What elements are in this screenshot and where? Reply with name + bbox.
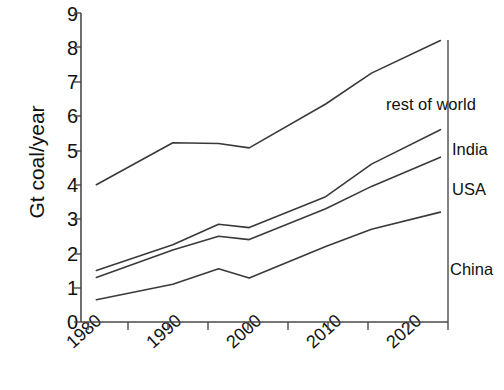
series-line-rest-of-world: [96, 41, 440, 185]
axes: [81, 13, 448, 322]
y-axis-ticks: [74, 13, 81, 322]
coal-consumption-chart: Gt coal/year 9 8 7 6 5 4 3 2 1 0 1980 19…: [0, 0, 504, 390]
series-line-china: [96, 212, 440, 300]
plot-canvas: [0, 0, 504, 390]
series-line-india: [96, 130, 440, 271]
x-axis-ticks: [88, 322, 448, 330]
series-line-usa: [96, 157, 440, 277]
